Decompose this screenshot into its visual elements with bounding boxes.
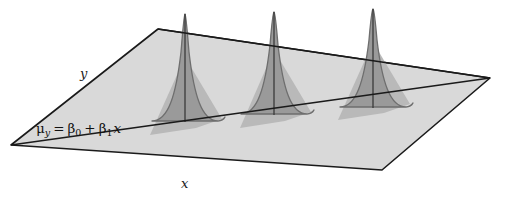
equation-mu: μ — [36, 120, 45, 136]
equation-x-variable: x — [114, 120, 122, 136]
equation-beta0-subscript: 0 — [75, 127, 81, 138]
equation-beta0: β — [67, 120, 75, 136]
equation-plus: + — [84, 120, 95, 136]
equation-equals: = — [53, 120, 64, 136]
y-axis-label: y — [79, 66, 88, 81]
diagram-canvas: y x μy=β0+β1x — [0, 0, 516, 208]
regression-diagram-figure: y x μy=β0+β1x — [0, 0, 516, 208]
x-axis-label: x — [181, 176, 189, 191]
equation-mu-subscript: y — [44, 127, 51, 138]
equation-beta1: β — [99, 120, 107, 136]
equation-beta1-subscript: 1 — [106, 127, 112, 138]
regression-plane — [11, 29, 490, 170]
